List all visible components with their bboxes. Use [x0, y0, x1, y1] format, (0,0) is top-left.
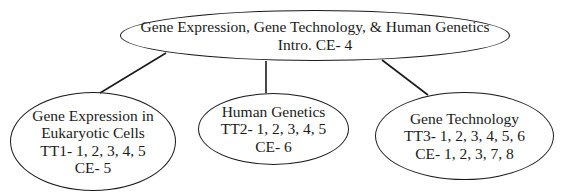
node-tt-list: TT3- 1, 2, 3, 4, 5, 6 [404, 127, 525, 144]
node-title: Gene Technology [410, 110, 519, 127]
node-ce-list: CE- 6 [255, 138, 292, 155]
node-tt-list: TT1- 1, 2, 3, 4, 5 [40, 142, 145, 159]
connector-root-to-gene-expression [100, 53, 166, 93]
node-ce-list: CE- 5 [75, 159, 112, 176]
node-human-genetics: Human Genetics TT2- 1, 2, 3, 4, 5 CE- 6 [198, 93, 349, 165]
node-ce-list: CE- 1, 2, 3, 7, 8 [415, 145, 514, 162]
root-title: Gene Expression, Gene Technology, & Huma… [141, 18, 490, 35]
root-subtitle: Intro. CE- 4 [278, 36, 352, 53]
node-title: Human Genetics [222, 103, 326, 120]
node-tt-list: TT2- 1, 2, 3, 4, 5 [221, 120, 326, 137]
node-gene-expression-eukaryotic: Gene Expression in Eukaryotic Cells TT1-… [10, 92, 176, 191]
root-node-gene-expression-technology-human-genetics: Gene Expression, Gene Technology, & Huma… [120, 10, 510, 61]
connector-root-to-gene-technology [382, 60, 428, 95]
node-title-line-1: Gene Expression in [32, 107, 153, 124]
node-gene-technology: Gene Technology TT3- 1, 2, 3, 4, 5, 6 CE… [375, 92, 554, 180]
node-title-line-2: Eukaryotic Cells [41, 124, 145, 141]
